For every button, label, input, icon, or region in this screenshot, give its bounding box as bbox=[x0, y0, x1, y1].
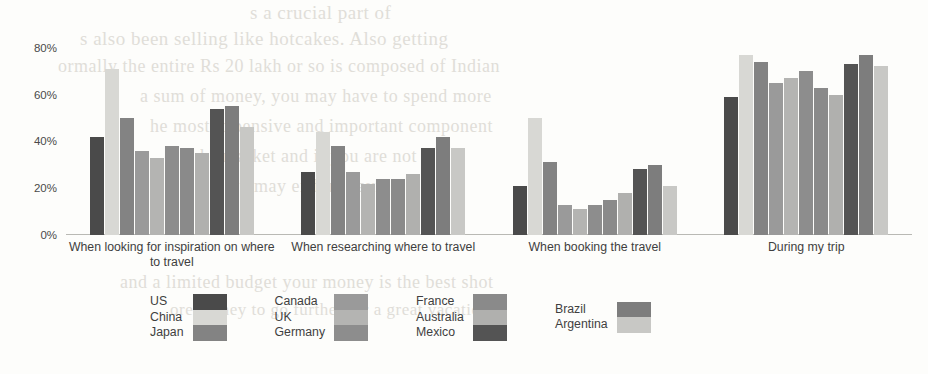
bar[interactable] bbox=[528, 118, 542, 235]
x-axis-label: During my trip bbox=[701, 240, 913, 270]
y-axis-tick: 40% bbox=[34, 135, 57, 147]
legend-label[interactable]: Argentina bbox=[555, 317, 608, 333]
legend-swatches bbox=[334, 294, 368, 341]
legend-swatches bbox=[193, 294, 227, 341]
legend-labels: FranceAustraliaMexico bbox=[416, 294, 464, 341]
legend-label[interactable]: Germany bbox=[275, 325, 326, 341]
bar-group bbox=[489, 36, 701, 235]
bar[interactable] bbox=[240, 127, 254, 235]
legend-label[interactable]: Canada bbox=[275, 294, 318, 310]
bar[interactable] bbox=[814, 88, 828, 235]
bar[interactable] bbox=[376, 179, 390, 235]
legend-column: CanadaUKGermany bbox=[275, 294, 369, 341]
y-axis-tick: 0% bbox=[40, 229, 57, 241]
y-axis-tick: 60% bbox=[34, 89, 57, 101]
bar[interactable] bbox=[513, 186, 527, 235]
bar[interactable] bbox=[769, 83, 783, 235]
legend-label[interactable]: China bbox=[150, 310, 182, 326]
x-axis-label: When researching where to travel bbox=[278, 240, 490, 270]
bar-chart: s a crucial part ofs also been selling l… bbox=[0, 0, 928, 374]
bar[interactable] bbox=[120, 118, 134, 235]
legend-swatch[interactable] bbox=[334, 294, 368, 310]
bar[interactable] bbox=[436, 137, 450, 235]
bar[interactable] bbox=[874, 66, 888, 235]
bar[interactable] bbox=[663, 186, 677, 235]
bar[interactable] bbox=[633, 169, 647, 235]
legend-column: USChinaJapan bbox=[150, 294, 227, 341]
bar[interactable] bbox=[754, 62, 768, 235]
bar[interactable] bbox=[165, 146, 179, 235]
bar[interactable] bbox=[799, 71, 813, 235]
legend-swatch[interactable] bbox=[334, 310, 368, 326]
x-axis-label: When booking the travel bbox=[489, 240, 701, 270]
legend-label[interactable]: France bbox=[416, 294, 454, 310]
legend-label[interactable]: Mexico bbox=[416, 325, 455, 341]
bleedthrough-line: and a limited budget your money is the b… bbox=[120, 272, 493, 293]
bar[interactable] bbox=[210, 109, 224, 235]
bar[interactable] bbox=[739, 55, 753, 235]
chart-legend: USChinaJapanCanadaUKGermanyFranceAustral… bbox=[150, 294, 810, 341]
legend-labels: BrazilArgentina bbox=[555, 302, 608, 333]
legend-swatch[interactable] bbox=[334, 325, 368, 341]
legend-label[interactable]: Japan bbox=[150, 325, 184, 341]
bar-group bbox=[701, 36, 913, 235]
bar[interactable] bbox=[135, 151, 149, 235]
bar-group bbox=[278, 36, 490, 235]
legend-label[interactable]: Brazil bbox=[555, 302, 586, 318]
x-axis-label: When looking for inspiration on where to… bbox=[66, 240, 278, 270]
bar[interactable] bbox=[784, 78, 798, 235]
bar[interactable] bbox=[648, 165, 662, 235]
bar[interactable] bbox=[618, 193, 632, 235]
legend-label[interactable]: UK bbox=[275, 310, 292, 326]
legend-column: FranceAustraliaMexico bbox=[416, 294, 507, 341]
bar[interactable] bbox=[225, 106, 239, 235]
bar[interactable] bbox=[859, 55, 873, 235]
bar[interactable] bbox=[391, 179, 405, 235]
bar[interactable] bbox=[361, 184, 375, 236]
bar[interactable] bbox=[301, 172, 315, 235]
bar[interactable] bbox=[346, 172, 360, 235]
bar[interactable] bbox=[844, 64, 858, 235]
legend-swatch[interactable] bbox=[473, 310, 507, 326]
bar[interactable] bbox=[603, 200, 617, 235]
legend-labels: USChinaJapan bbox=[150, 294, 184, 341]
bar[interactable] bbox=[451, 148, 465, 235]
legend-label[interactable]: Australia bbox=[416, 310, 464, 326]
bar[interactable] bbox=[724, 97, 738, 235]
legend-column: BrazilArgentina bbox=[555, 294, 651, 341]
y-axis-tick: 20% bbox=[34, 182, 57, 194]
bar[interactable] bbox=[588, 205, 602, 235]
legend-label[interactable]: US bbox=[150, 294, 167, 310]
bar[interactable] bbox=[90, 137, 104, 235]
bar[interactable] bbox=[331, 146, 345, 235]
legend-swatch[interactable] bbox=[193, 310, 227, 326]
bar[interactable] bbox=[105, 69, 119, 235]
bar[interactable] bbox=[316, 132, 330, 235]
legend-swatch[interactable] bbox=[617, 317, 651, 333]
x-axis-labels: When looking for inspiration on where to… bbox=[66, 240, 912, 270]
legend-swatch[interactable] bbox=[473, 325, 507, 341]
bar[interactable] bbox=[150, 158, 164, 235]
bar[interactable] bbox=[421, 148, 435, 235]
legend-swatches bbox=[473, 294, 507, 341]
legend-swatch[interactable] bbox=[193, 294, 227, 310]
plot-area: 0%20%40%60%80% bbox=[66, 36, 912, 235]
legend-swatch[interactable] bbox=[617, 302, 651, 318]
bar-group bbox=[66, 36, 278, 235]
bar[interactable] bbox=[543, 162, 557, 235]
bar[interactable] bbox=[195, 153, 209, 235]
bar[interactable] bbox=[406, 174, 420, 235]
bar[interactable] bbox=[180, 148, 194, 235]
bar[interactable] bbox=[558, 205, 572, 235]
bar[interactable] bbox=[829, 95, 843, 235]
bar[interactable] bbox=[573, 209, 587, 235]
legend-swatch[interactable] bbox=[473, 294, 507, 310]
legend-labels: CanadaUKGermany bbox=[275, 294, 326, 341]
y-axis-tick: 80% bbox=[34, 42, 57, 54]
legend-swatch[interactable] bbox=[193, 325, 227, 341]
bleedthrough-line: s a crucial part of bbox=[250, 2, 391, 24]
legend-swatches bbox=[617, 302, 651, 333]
bar-groups bbox=[66, 36, 912, 235]
